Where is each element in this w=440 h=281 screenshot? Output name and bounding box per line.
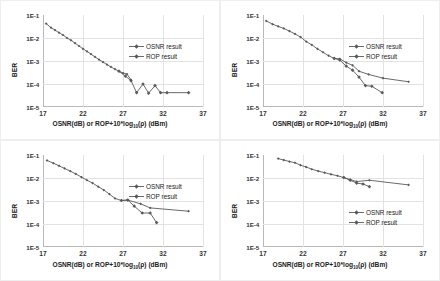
- panel-c-legend-item-1[interactable]: ROP result: [129, 193, 182, 200]
- panel-d-marker-0-8: [323, 171, 326, 174]
- panel-b-legend-label-0: OSNR result: [366, 43, 402, 50]
- panel-a-xtick-32: 32: [159, 110, 166, 117]
- panel-c-legend-item-0[interactable]: OSNR result: [129, 183, 182, 190]
- panel-a-xtick-17: 17: [39, 110, 46, 117]
- panel-c-xtick-22: 22: [79, 250, 86, 257]
- panel-d-marker-1-4: [368, 185, 372, 189]
- panel-a-ylabel: BER: [11, 63, 18, 77]
- panel-c-marker-0-16: [149, 207, 152, 210]
- figure-grid: (a) Baud rate 45G BER 17222732371E-11E-2…: [0, 0, 440, 281]
- panel-d-marker-0-3: [294, 161, 297, 164]
- panel-a-line-rop-result: [119, 71, 189, 93]
- panel-a-ytick-1E-4: 1E-4: [26, 81, 39, 88]
- panel-c-xlabel: OSNR(dB) or ROP+10*log10(ρ) (dBm): [1, 261, 219, 270]
- panel-a-gridline-x-37: [203, 15, 204, 107]
- panel-c-legend-key-1: [129, 193, 144, 200]
- panel-d-ytick-1E-1: 1E-1: [246, 152, 259, 159]
- panel-c-ytick-1E-5: 1E-5: [26, 244, 39, 251]
- panel-b-xlabel: OSNR(dB) or ROP+10*log10(ρ) (dBm): [221, 120, 439, 129]
- panel-d-plot: 17222732371E-11E-21E-31E-41E-5OSNR resul…: [263, 155, 423, 247]
- xlabel-pre: OSNR(dB) or ROP+10*log: [273, 261, 353, 268]
- panel-c-legend-label-1: ROP result: [146, 193, 177, 200]
- panel-d-marker-0-7: [317, 170, 320, 173]
- panel-a-legend: OSNR resultROP result: [129, 43, 182, 60]
- panel-b-marker-0-2: [277, 25, 280, 28]
- panel-c-plot: 17222732371E-11E-21E-31E-41E-5OSNR resul…: [43, 155, 203, 247]
- panel-a-xtick-22: 22: [79, 110, 86, 117]
- panel-d-marker-0-4: [299, 164, 302, 167]
- panel-b-xtick-22: 22: [299, 110, 306, 117]
- panel-a-legend-item-0[interactable]: OSNR result: [129, 43, 182, 50]
- panel-b-series-layer: [263, 15, 423, 107]
- panel-c-ytick-1E-3: 1E-3: [26, 198, 39, 205]
- panel-d-marker-0-10: [336, 174, 339, 177]
- panel-d-xtick-27: 27: [339, 250, 346, 257]
- panel-c-xtick-27: 27: [119, 250, 126, 257]
- panel-c-legend-key-0: [129, 183, 144, 190]
- panel-b-ytick-1E-2: 1E-2: [246, 35, 259, 42]
- panel-b-legend-item-1[interactable]: ROP result: [349, 53, 402, 60]
- panel-a-ytick-1E-2: 1E-2: [26, 35, 39, 42]
- panel-d-marker-0-6: [310, 168, 313, 171]
- panel-d-legend: OSNR resultROP result: [349, 209, 402, 226]
- panel-d-marker-0-14: [368, 179, 371, 182]
- panel-a-xtick-27: 27: [119, 110, 126, 117]
- panel-d-xtick-17: 17: [259, 250, 266, 257]
- panel-b-legend-item-0[interactable]: OSNR result: [349, 43, 402, 50]
- xlabel-post: (ρ) (dBm): [358, 120, 387, 127]
- panel-a-legend-label-1: ROP result: [146, 53, 177, 60]
- panel-c-marker-0-15: [139, 203, 142, 206]
- panel-d-marker-0-2: [288, 160, 291, 163]
- panel-d-legend-key-0: [349, 209, 364, 216]
- panel-c-legend-label-0: OSNR result: [146, 183, 182, 190]
- panel-d-ytick-1E-4: 1E-4: [246, 221, 259, 228]
- panel-b-legend-key-1: [349, 53, 364, 60]
- panel-a-legend-key-0: [129, 43, 144, 50]
- panel-a: (a) Baud rate 45G BER 17222732371E-11E-2…: [0, 0, 220, 140]
- xlabel-post: (ρ) (dBm): [138, 120, 167, 127]
- panel-b-ylabel: BER: [231, 63, 238, 77]
- panel-b-xtick-17: 17: [259, 110, 266, 117]
- panel-c-marker-1-0: [120, 199, 124, 203]
- panel-b-legend-label-1: ROP result: [366, 53, 397, 60]
- panel-a-legend-item-1[interactable]: ROP result: [129, 53, 182, 60]
- panel-d-legend-item-0[interactable]: OSNR result: [349, 209, 402, 216]
- panel-a-marker-1-8: [165, 91, 169, 95]
- panel-d-legend-key-1: [349, 219, 364, 226]
- panel-d-legend-item-1[interactable]: ROP result: [349, 219, 402, 226]
- panel-b-gridline-x-37: [423, 15, 424, 107]
- panel-a-marker-1-9: [187, 91, 191, 95]
- panel-a-legend-key-1: [129, 53, 144, 60]
- panel-b-ytick-1E-1: 1E-1: [246, 12, 259, 19]
- panel-b-line-rop-result: [334, 58, 382, 92]
- panel-b: (b) Baud rate 56G BER 17222732371E-11E-2…: [220, 0, 440, 140]
- panel-d-xlabel: OSNR(dB) or ROP+10*log10(ρ) (dBm): [221, 261, 439, 270]
- panel-b-plot: 17222732371E-11E-21E-31E-41E-5OSNR resul…: [263, 15, 423, 107]
- panel-b-xtick-32: 32: [379, 110, 386, 117]
- xlabel-post: (ρ) (dBm): [138, 261, 167, 268]
- panel-c-marker-0-17: [187, 210, 190, 213]
- panel-b-ytick-1E-4: 1E-4: [246, 81, 259, 88]
- panel-c-ylabel: BER: [11, 203, 18, 217]
- xlabel-post: (ρ) (dBm): [358, 261, 387, 268]
- panel-d-marker-0-5: [305, 166, 308, 169]
- panel-b-xtick-37: 37: [419, 110, 426, 117]
- panel-c-marker-0-1: [52, 162, 55, 165]
- panel-d: (d) Baud rate 86G BER 17222732371E-11E-2…: [220, 140, 440, 281]
- panel-c: (c) Baud rate 64G BER 17222732371E-11E-2…: [0, 140, 220, 281]
- panel-d-xtick-32: 32: [379, 250, 386, 257]
- panel-d-ytick-1E-3: 1E-3: [246, 198, 259, 205]
- panel-c-xtick-32: 32: [159, 250, 166, 257]
- panel-b-xtick-27: 27: [339, 110, 346, 117]
- panel-c-series-layer: [43, 155, 203, 247]
- panel-d-ylabel: BER: [231, 203, 238, 217]
- panel-c-ytick-1E-4: 1E-4: [26, 221, 39, 228]
- panel-c-ytick-1E-1: 1E-1: [26, 152, 39, 159]
- panel-d-xtick-22: 22: [299, 250, 306, 257]
- panel-c-ytick-1E-2: 1E-2: [26, 175, 39, 182]
- panel-b-marker-0-17: [367, 73, 370, 76]
- panel-a-legend-label-0: OSNR result: [146, 43, 182, 50]
- panel-b-marker-0-18: [382, 77, 385, 80]
- panel-b-ytick-1E-5: 1E-5: [246, 104, 259, 111]
- panel-d-marker-0-0: [277, 157, 280, 160]
